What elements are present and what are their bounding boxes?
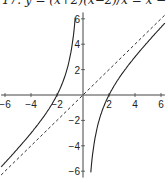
x-tick-label: −4 <box>25 99 37 110</box>
x-tick-label: 4 <box>132 99 138 110</box>
y-tick-label: 2 <box>74 65 80 76</box>
x-tick-label: 2 <box>106 99 112 110</box>
curve-left-branch <box>1 18 75 167</box>
y-tick-label: −6 <box>69 166 81 177</box>
x-tick-label: −2 <box>51 99 63 110</box>
plot-area: −6−4−2246−6−4−2246 <box>0 0 168 183</box>
y-tick-label: 4 <box>74 39 80 50</box>
x-tick-label: 6 <box>158 99 164 110</box>
y-tick-label: −4 <box>69 141 81 152</box>
x-tick-label: −6 <box>0 99 11 110</box>
y-tick-label: −2 <box>69 115 81 126</box>
curve-right-branch <box>91 23 165 172</box>
